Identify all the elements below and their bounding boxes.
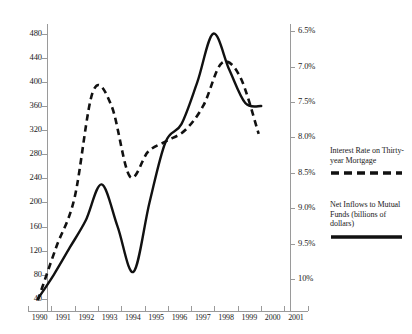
legend-swatch-dashed — [330, 168, 404, 178]
series-net-inflows-line — [38, 34, 261, 299]
legend-item-interest-rate: Interest Rate on Thirty-year Mortgage — [330, 146, 410, 178]
legend-label-net-inflows: Net Inflows to Mutual Funds (billions of… — [330, 200, 410, 229]
legend-label-interest-rate: Interest Rate on Thirty-year Mortgage — [330, 146, 410, 165]
series-interest-rate-line — [38, 61, 259, 300]
legend-swatch-solid — [330, 232, 404, 242]
legend-item-net-inflows: Net Inflows to Mutual Funds (billions of… — [330, 200, 410, 242]
chart-figure: 4804404003603202802402001601208040 6.5%7… — [0, 0, 412, 334]
